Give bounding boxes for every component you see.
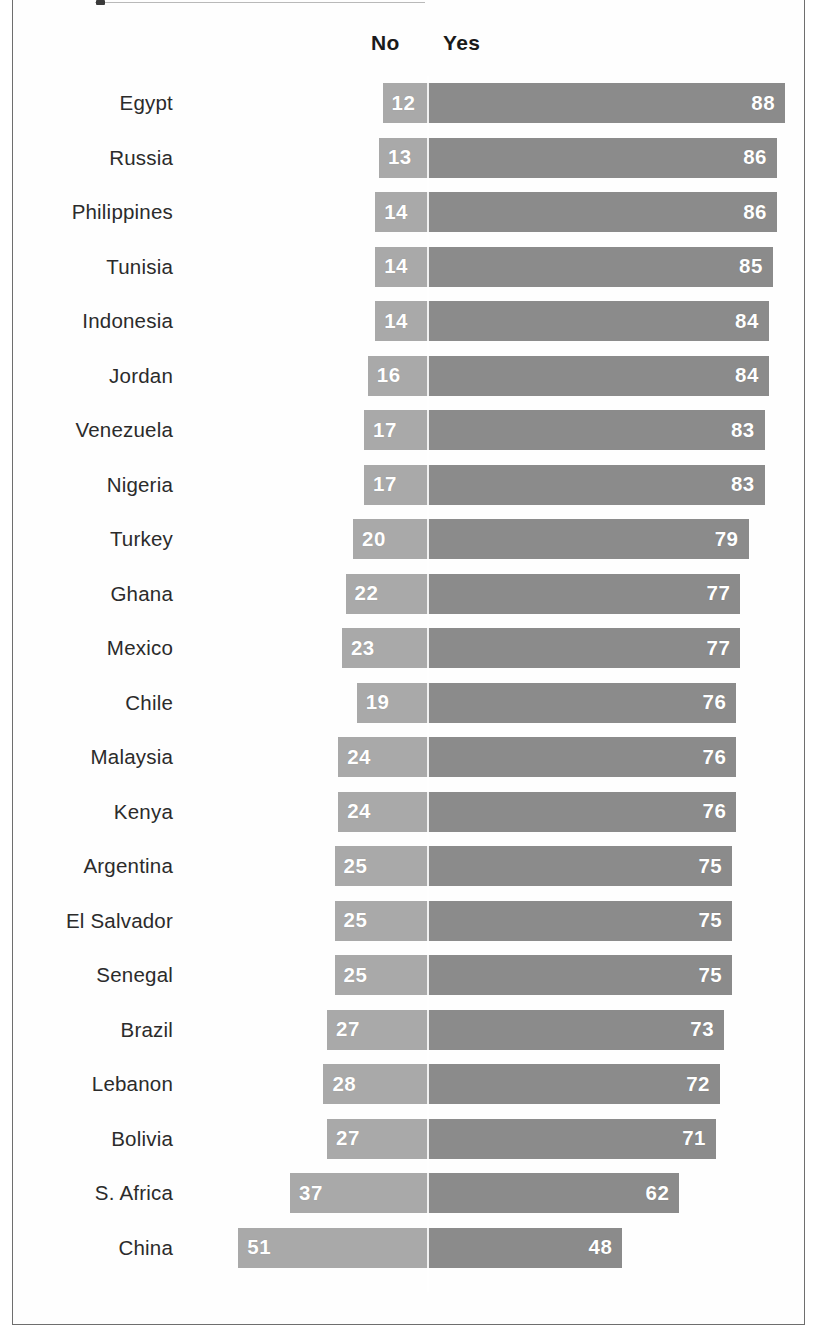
bar-segment-no: 14	[375, 301, 427, 341]
bar-value-no: 19	[366, 692, 390, 713]
chart-row: Mexico2377	[0, 621, 816, 676]
bar-segment-yes: 86	[427, 192, 777, 232]
chart-row: Malaysia2476	[0, 730, 816, 785]
bar-segment-no: 51	[238, 1228, 427, 1268]
country-label: Ghana	[0, 567, 173, 622]
bar-value-yes: 62	[646, 1183, 670, 1204]
bar-value-yes: 75	[698, 856, 722, 877]
chart-row: Bolivia2771	[0, 1112, 816, 1167]
chart-row: Kenya2476	[0, 785, 816, 840]
bar-segment-no: 14	[375, 192, 427, 232]
bar-value-no: 25	[344, 965, 368, 986]
bar-segment-no: 22	[346, 574, 427, 614]
stacked-bar: 2575	[335, 846, 733, 886]
bar-segment-yes: 75	[427, 955, 732, 995]
bar-segment-no: 17	[364, 410, 427, 450]
bar-value-yes: 48	[589, 1237, 613, 1258]
stacked-bar: 1486	[375, 192, 777, 232]
bar-value-no: 51	[247, 1237, 271, 1258]
chart-row: Indonesia1484	[0, 294, 816, 349]
stacked-bar: 2872	[323, 1064, 720, 1104]
legend-label-yes: Yes	[443, 30, 480, 56]
bar-value-no: 28	[332, 1074, 356, 1095]
bar-value-yes: 72	[686, 1074, 710, 1095]
bar-value-no: 13	[388, 147, 412, 168]
bar-value-no: 25	[344, 856, 368, 877]
country-label: Malaysia	[0, 730, 173, 785]
bar-segment-no: 23	[342, 628, 427, 668]
chart-row: Turkey2079	[0, 512, 816, 567]
bar-value-yes: 76	[702, 801, 726, 822]
bar-value-no: 16	[377, 365, 401, 386]
bar-segment-yes: 75	[427, 846, 732, 886]
bar-value-yes: 71	[682, 1128, 706, 1149]
bar-segment-yes: 77	[427, 628, 740, 668]
chart-row: China5148	[0, 1221, 816, 1276]
country-label: Russia	[0, 131, 173, 186]
country-label: Bolivia	[0, 1112, 173, 1167]
bar-segment-yes: 75	[427, 901, 732, 941]
bar-value-no: 12	[392, 93, 416, 114]
chart-row: Argentina2575	[0, 839, 816, 894]
stacked-bar: 1288	[383, 83, 786, 123]
stacked-bar: 1386	[379, 138, 777, 178]
bar-segment-no: 25	[335, 846, 428, 886]
stacked-bar: 1484	[375, 301, 769, 341]
stacked-bar: 2377	[342, 628, 740, 668]
bar-value-no: 14	[384, 202, 408, 223]
bar-segment-yes: 48	[427, 1228, 622, 1268]
country-label: Argentina	[0, 839, 173, 894]
country-label: Jordan	[0, 349, 173, 404]
country-label: China	[0, 1221, 173, 1276]
legend-label-no: No	[371, 30, 400, 56]
country-label: Philippines	[0, 185, 173, 240]
bar-value-no: 22	[355, 583, 379, 604]
chart-row: Ghana2277	[0, 567, 816, 622]
bar-value-no: 27	[336, 1128, 360, 1149]
bar-segment-no: 24	[338, 737, 427, 777]
bar-value-yes: 73	[690, 1019, 714, 1040]
country-label: Senegal	[0, 948, 173, 1003]
bar-segment-no: 14	[375, 247, 427, 287]
country-label: S. Africa	[0, 1166, 173, 1221]
bar-segment-no: 20	[353, 519, 427, 559]
stacked-bar: 1783	[364, 410, 765, 450]
bar-value-yes: 75	[698, 910, 722, 931]
country-label: El Salvador	[0, 894, 173, 949]
bar-segment-yes: 86	[427, 138, 777, 178]
bar-value-yes: 84	[735, 311, 759, 332]
bar-value-yes: 77	[707, 638, 731, 659]
bar-value-yes: 83	[731, 420, 755, 441]
chart-plot-area: Egypt1288Russia1386Philippines1486Tunisi…	[0, 76, 816, 1294]
bar-segment-no: 13	[379, 138, 427, 178]
stacked-bar: 1976	[357, 683, 737, 723]
bar-segment-no: 28	[323, 1064, 427, 1104]
bar-segment-yes: 85	[427, 247, 773, 287]
chart-row: Philippines1486	[0, 185, 816, 240]
bar-value-no: 17	[373, 420, 397, 441]
bar-segment-yes: 84	[427, 356, 769, 396]
bar-value-no: 14	[384, 311, 408, 332]
bar-segment-yes: 83	[427, 465, 765, 505]
bar-value-no: 17	[373, 474, 397, 495]
bar-value-no: 14	[384, 256, 408, 277]
stacked-bar-chart: No Yes Egypt1288Russia1386Philippines148…	[0, 0, 816, 1334]
bar-segment-no: 25	[335, 901, 428, 941]
country-label: Chile	[0, 676, 173, 731]
country-label: Lebanon	[0, 1057, 173, 1112]
bar-value-no: 24	[347, 801, 371, 822]
country-label: Kenya	[0, 785, 173, 840]
country-label: Tunisia	[0, 240, 173, 295]
chart-row: Jordan1684	[0, 349, 816, 404]
bar-segment-yes: 88	[427, 83, 785, 123]
country-label: Nigeria	[0, 458, 173, 513]
stacked-bar: 5148	[238, 1228, 622, 1268]
bar-segment-no: 37	[290, 1173, 427, 1213]
stacked-bar: 2476	[338, 792, 736, 832]
bar-segment-no: 17	[364, 465, 427, 505]
country-label: Egypt	[0, 76, 173, 131]
bar-value-yes: 88	[751, 93, 775, 114]
chart-row: Lebanon2872	[0, 1057, 816, 1112]
bar-segment-yes: 79	[427, 519, 749, 559]
bar-value-no: 24	[347, 747, 371, 768]
